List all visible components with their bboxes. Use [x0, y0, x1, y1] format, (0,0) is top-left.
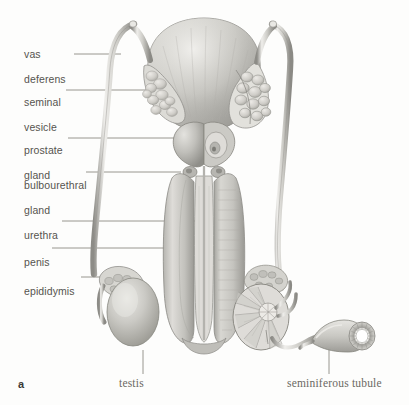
label-epididymis-line1: epididymis: [24, 285, 75, 297]
label-seminal-vesicle: seminal vesicle: [18, 83, 61, 133]
label-vas-deferens: vas deferens: [18, 35, 66, 85]
label-urethra: urethra: [18, 216, 58, 241]
testis-right-section: [233, 265, 318, 350]
label-prostate-gland-line1: prostate: [24, 144, 63, 156]
seminiferous-tubule: [300, 320, 375, 352]
label-bulbourethral-gland: bulbourethral gland: [18, 166, 87, 216]
label-urethra-line1: urethra: [24, 229, 58, 241]
label-bulbourethral-gland-line2: gland: [24, 204, 50, 216]
leader-lines-bottom: [143, 348, 329, 374]
label-bulbourethral-gland-line1: bulbourethral: [24, 179, 87, 191]
vas-deferens-right: [257, 21, 290, 288]
penis-shaft: [163, 166, 244, 354]
label-penis-line1: penis: [24, 256, 50, 268]
label-epididymis: epididymis: [18, 272, 75, 297]
label-vas-deferens-line1: vas: [24, 48, 41, 60]
vas-deferens-left: [93, 21, 150, 274]
label-testis: testis: [119, 377, 144, 389]
testis-left: [99, 266, 159, 346]
label-penis: penis: [18, 243, 50, 268]
panel-letter: a: [18, 378, 24, 390]
prostate-gland: [173, 122, 235, 167]
label-seminal-vesicle-line1: seminal: [24, 96, 61, 108]
label-seminiferous-tubule: seminiferous tubule: [287, 377, 382, 389]
rete-testis: [259, 303, 277, 321]
